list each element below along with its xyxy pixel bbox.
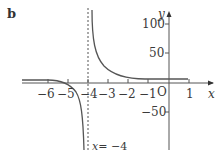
asymptote-label: x= −4 bbox=[92, 141, 127, 152]
x-tick-label: −2 bbox=[118, 88, 136, 100]
x-tick-label: −5 bbox=[57, 88, 75, 100]
y-tick-label: 50 bbox=[149, 47, 164, 59]
y-axis-arrow-icon bbox=[167, 11, 172, 17]
y-tick-label: 100 bbox=[142, 18, 165, 30]
x-tick-label: −6 bbox=[37, 88, 55, 100]
curve-right-branch bbox=[92, 10, 188, 79]
x-axis-label: x bbox=[208, 88, 215, 100]
x-tick-label: −4 bbox=[80, 88, 98, 100]
y-tick-label: −50 bbox=[141, 106, 166, 118]
origin-label: O bbox=[157, 86, 167, 98]
x-tick-label: 1 bbox=[186, 88, 194, 100]
chart-plot bbox=[0, 0, 220, 155]
asymptote-label-eq: = −4 bbox=[98, 140, 127, 153]
x-axis-arrow-icon bbox=[208, 81, 214, 86]
x-tick-label: −1 bbox=[139, 88, 157, 100]
x-tick-label: −3 bbox=[98, 88, 116, 100]
